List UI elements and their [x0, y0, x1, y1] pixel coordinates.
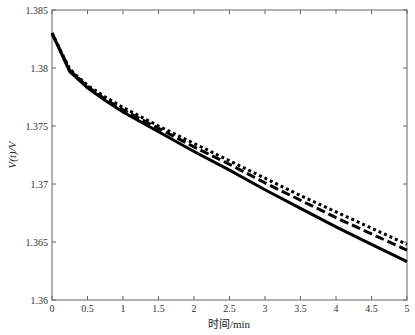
- y-tick-label: 1.365: [26, 237, 49, 248]
- y-axis-title: V(t)/V: [6, 140, 19, 168]
- y-tick-label: 1.38: [31, 63, 49, 74]
- line-chart: 00.511.522.533.544.55 1.361.3651.371.375…: [0, 0, 415, 335]
- plot-area: [52, 10, 407, 300]
- x-tick-label: 2.5: [223, 303, 236, 314]
- x-tick-label: 0: [50, 303, 55, 314]
- x-tick-label: 4.5: [365, 303, 378, 314]
- x-tick-label: 3.5: [294, 303, 307, 314]
- x-tick-label: 1.5: [152, 303, 165, 314]
- y-tick-label: 1.36: [31, 295, 49, 306]
- x-axis-title: 时间/min: [208, 318, 251, 330]
- y-tick-label: 1.37: [31, 179, 49, 190]
- x-tick-label: 0.5: [81, 303, 94, 314]
- x-tick-label: 2: [192, 303, 197, 314]
- x-tick-label: 3: [263, 303, 268, 314]
- x-tick-label: 5: [405, 303, 410, 314]
- y-tick-label: 1.375: [26, 121, 49, 132]
- x-tick-label: 1: [121, 303, 126, 314]
- x-tick-label: 4: [334, 303, 339, 314]
- y-tick-label: 1.385: [26, 5, 49, 16]
